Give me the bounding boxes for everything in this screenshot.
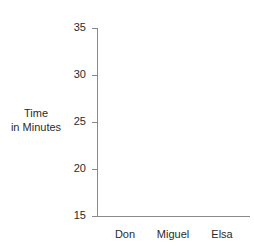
y-axis-title-line-1: Time	[2, 106, 70, 120]
y-axis-title-line-2: in Minutes	[2, 120, 70, 134]
x-axis-label-elsa: Elsa	[211, 228, 232, 240]
x-axis-label-don: Don	[115, 228, 135, 240]
plot-area	[98, 28, 250, 216]
y-axis-title: Time in Minutes	[2, 106, 70, 134]
y-tick-mark	[92, 28, 97, 29]
y-tick-mark	[92, 75, 97, 76]
x-axis-label-miguel: Miguel	[157, 228, 189, 240]
y-tick-label: 30	[62, 69, 86, 80]
x-axis-line	[97, 216, 250, 217]
chart-container: Time in Minutes 35 30 25 20 15 Don Migue…	[0, 0, 254, 248]
y-tick-label: 35	[62, 22, 86, 33]
y-tick-label: 20	[62, 163, 86, 174]
y-tick-label: 15	[62, 210, 86, 221]
y-tick-mark	[92, 122, 97, 123]
chart-title-remnant	[92, 0, 222, 4]
y-tick-label: 25	[62, 116, 86, 127]
y-tick-mark	[92, 169, 97, 170]
y-tick-mark	[92, 216, 97, 217]
